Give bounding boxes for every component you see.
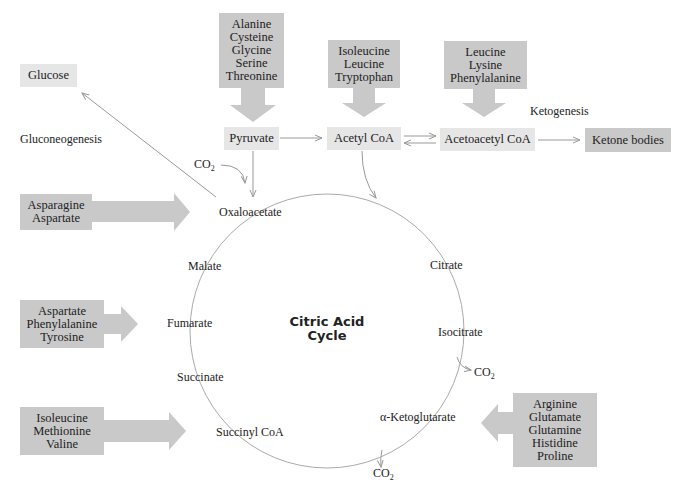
cycle-title-line2: Cycle xyxy=(282,329,372,343)
amino-acid-label: Phenylalanine xyxy=(27,318,98,331)
ketone-bodies-node: Ketone bodies xyxy=(585,128,671,152)
arrow-to-pyruvate xyxy=(230,88,276,122)
amino-acid-label: Aspartate xyxy=(38,305,86,318)
amino-acids-to-pyruvate: Alanine Cysteine Glycine Serine Threonin… xyxy=(219,13,284,88)
acetyl-coa-label: Acetyl CoA xyxy=(334,132,394,145)
arrow-co2-in xyxy=(221,165,245,183)
cycle-title: Citric Acid Cycle xyxy=(282,315,372,343)
arrow-to-alpha-ketoglutarate xyxy=(481,404,515,442)
arrow-to-acetoacetyl-coa xyxy=(462,88,506,117)
amino-acid-label: Glutamine xyxy=(529,424,582,437)
amino-acids-to-succinyl-coa: Isoleucine Methionine Valine xyxy=(20,407,104,455)
arrow-acetyl-coa-into-cycle xyxy=(362,151,376,198)
oxaloacetate-label: Oxaloacetate xyxy=(219,205,282,220)
cycle-title-line1: Citric Acid xyxy=(282,315,372,329)
amino-acid-label: Lysine xyxy=(469,59,502,72)
fumarate-label: Fumarate xyxy=(167,316,212,331)
amino-acid-label: Tyrosine xyxy=(40,331,84,344)
malate-label: Malate xyxy=(188,259,221,274)
amino-acid-label: Isoleucine xyxy=(36,412,87,425)
amino-acids-to-alpha-ketoglutarate: Arginine Glutamate Glutamine Histidine P… xyxy=(513,393,597,467)
arrow-oxaloacetate-to-glucose xyxy=(82,93,216,197)
succinate-label: Succinate xyxy=(177,370,224,385)
pyruvate-node: Pyruvate xyxy=(224,127,279,150)
succinyl-coa-label: Succinyl CoA xyxy=(216,425,284,440)
amino-acids-to-fumarate: Aspartate Phenylalanine Tyrosine xyxy=(20,300,104,348)
amino-acid-label: Phenylalanine xyxy=(450,72,521,85)
amino-acids-to-acetoacetyl-coa: Leucine Lysine Phenylalanine xyxy=(444,41,527,89)
amino-acid-label: Arginine xyxy=(533,398,577,411)
arrow-to-fumarate xyxy=(104,306,138,342)
amino-acid-label: Leucine xyxy=(465,46,505,59)
ketogenesis-label: Ketogenesis xyxy=(530,104,589,119)
acetoacetyl-coa-node: Acetoacetyl CoA xyxy=(440,128,535,151)
amino-acid-label: Methionine xyxy=(33,425,91,438)
arrow-akg-co2 xyxy=(381,450,382,467)
amino-acid-label: Threonine xyxy=(226,70,277,83)
arrow-to-succinyl-coa xyxy=(104,412,186,450)
co2-input-label: CO2 xyxy=(194,157,215,173)
amino-acid-label: Glutamate xyxy=(529,411,581,424)
acetyl-coa-node: Acetyl CoA xyxy=(327,127,401,150)
citrate-label: Citrate xyxy=(430,258,463,273)
acetoacetyl-coa-label: Acetoacetyl CoA xyxy=(444,133,530,146)
isocitrate-label: Isocitrate xyxy=(438,325,483,340)
amino-acid-label: Tryptophan xyxy=(335,71,393,84)
amino-acids-to-acetyl-coa: Isoleucine Leucine Tryptophan xyxy=(328,40,400,88)
amino-acid-label: Valine xyxy=(46,438,78,451)
glucose-node: Glucose xyxy=(20,64,77,87)
amino-acid-label: Aspartate xyxy=(32,212,80,225)
gluconeogenesis-label: Gluconeogenesis xyxy=(20,132,102,147)
arrow-to-acetyl-coa xyxy=(342,88,386,117)
glucose-label: Glucose xyxy=(28,69,69,82)
amino-acids-to-oxaloacetate: Asparagine Aspartate xyxy=(20,194,92,230)
co2-akg-label: CO2 xyxy=(373,466,394,482)
co2-isocitrate-label: CO2 xyxy=(474,365,495,381)
arrow-to-oxaloacetate xyxy=(92,193,190,231)
pyruvate-label: Pyruvate xyxy=(229,132,273,145)
amino-acid-label: Proline xyxy=(537,450,573,463)
alpha-ketoglutarate-label: α-Ketoglutarate xyxy=(380,410,456,425)
amino-acid-label: Leucine xyxy=(344,58,384,71)
ketone-bodies-label: Ketone bodies xyxy=(592,134,664,147)
amino-acid-label: Isoleucine xyxy=(338,45,389,58)
amino-acid-label: Histidine xyxy=(532,437,578,450)
